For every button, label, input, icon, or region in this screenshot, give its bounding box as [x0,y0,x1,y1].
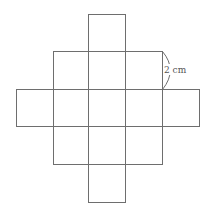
square-r3-c2 [89,127,126,165]
square-r1-c2 [89,52,126,90]
dimension-label: 2 cm [164,65,187,75]
square-r3-c3 [126,127,163,165]
square-r2-c2 [89,90,126,127]
shape-diagram: 2 cm [0,0,213,222]
square-r2-c4 [163,90,200,127]
square-r4-c2 [89,165,126,203]
square-grid [17,15,200,203]
square-r3-c1 [54,127,89,165]
square-r0-c2 [89,15,126,52]
square-r1-c1 [54,52,89,90]
square-r1-c3 [126,52,163,90]
square-r2-c3 [126,90,163,127]
square-r2-c0 [17,90,54,127]
square-r2-c1 [54,90,89,127]
